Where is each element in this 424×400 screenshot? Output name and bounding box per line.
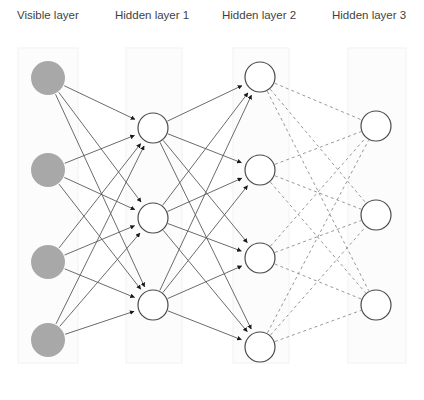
label-hidden-layer-3: Hidden layer 3 — [332, 9, 406, 21]
node-v3[interactable] — [31, 245, 65, 279]
node-h1c[interactable] — [138, 290, 168, 320]
node-v2[interactable] — [31, 153, 65, 187]
node-h2b[interactable] — [245, 155, 275, 185]
network-edges — [56, 83, 369, 341]
node-h3c[interactable] — [361, 290, 391, 320]
node-h3b[interactable] — [361, 200, 391, 230]
neural-network-diagram: Visible layerHidden layer 1Hidden layer … — [0, 0, 424, 400]
layer-panel-panel-hidden-2 — [233, 48, 289, 363]
node-h2d[interactable] — [245, 332, 275, 362]
node-v4[interactable] — [31, 323, 65, 357]
node-h1b[interactable] — [138, 203, 168, 233]
node-h2a[interactable] — [245, 62, 275, 92]
network-nodes — [31, 61, 391, 362]
network-canvas: Visible layerHidden layer 1Hidden layer … — [0, 0, 424, 400]
layer-panels — [18, 48, 406, 363]
node-h1a[interactable] — [138, 113, 168, 143]
label-hidden-layer-1: Hidden layer 1 — [115, 9, 189, 21]
node-h3a[interactable] — [361, 111, 391, 141]
node-h2c[interactable] — [245, 243, 275, 273]
node-v1[interactable] — [31, 61, 65, 95]
label-hidden-layer-2: Hidden layer 2 — [222, 9, 296, 21]
label-visible-layer: Visible layer — [17, 9, 79, 21]
layer-labels: Visible layerHidden layer 1Hidden layer … — [17, 9, 406, 21]
